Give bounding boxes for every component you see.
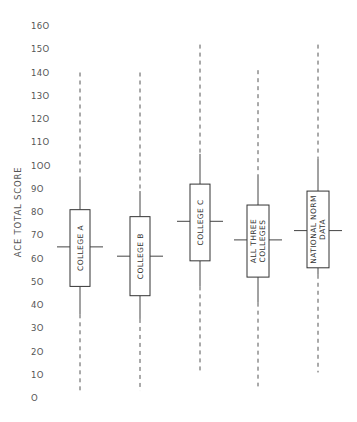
y-tick-label: 12O <box>31 114 49 124</box>
y-tick-label: 14O <box>31 68 49 78</box>
box-label: COLLEGE A <box>76 225 85 271</box>
box-label: COLLEGES <box>258 220 267 263</box>
y-axis-title: ACE TOTAL SCORE <box>13 167 23 258</box>
box-plot-national-norm-data: NATIONAL NORMDATA <box>294 45 342 373</box>
y-axis: O1O2O3O4O5O6O7O8O9O1OO11O12O13O14O15O16O <box>31 21 51 403</box>
y-tick-label: 3O <box>31 323 44 333</box>
y-tick-label: 15O <box>31 44 49 54</box>
box-plots: COLLEGE ACOLLEGE BCOLLEGE CALL THREECOLL… <box>57 45 342 394</box>
y-tick-label: 6O <box>31 254 44 264</box>
box-plot-college-c: COLLEGE C <box>177 45 223 373</box>
y-tick-label: 16O <box>31 21 49 31</box>
box-label: COLLEGE C <box>196 199 205 245</box>
box-label: DATA <box>318 219 327 240</box>
y-tick-label: 4O <box>31 300 44 310</box>
box-plot-college-a: COLLEGE A <box>57 73 103 394</box>
y-tick-label: O <box>31 393 38 403</box>
y-tick-label: 5O <box>31 277 44 287</box>
y-tick-label: 13O <box>31 91 49 101</box>
y-tick-label: 1O <box>31 370 44 380</box>
y-tick-label: 8O <box>31 207 44 217</box>
y-tick-label: 9O <box>31 184 44 194</box>
boxplot-chart: O1O2O3O4O5O6O7O8O9O1OO11O12O13O14O15O16O… <box>0 0 357 422</box>
y-tick-label: 1OO <box>31 161 51 171</box>
y-tick-label: 11O <box>31 137 49 147</box>
y-tick-label: 2O <box>31 347 44 357</box>
y-tick-label: 7O <box>31 230 44 240</box>
box-plot-all-three-colleges: ALL THREECOLLEGES <box>234 70 282 386</box>
box-plot-college-b: COLLEGE B <box>117 73 163 392</box>
box-label: COLLEGE B <box>136 233 145 279</box>
